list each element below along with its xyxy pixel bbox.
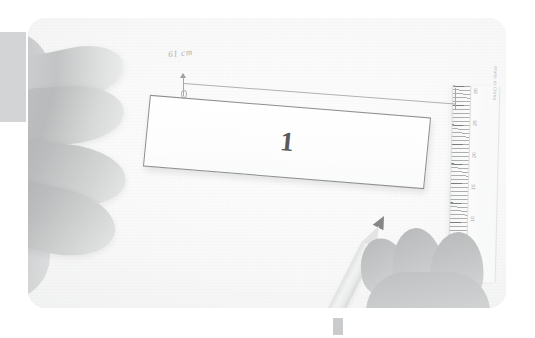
- left-edge-panel[interactable]: [0, 32, 26, 122]
- left-finger-middle: [28, 82, 126, 148]
- dimension-cap-right: [455, 88, 456, 110]
- bottom-center-marker[interactable]: [333, 318, 343, 335]
- photograph: 30 25 20 15 10 5 Made in China 61 cm 1: [28, 18, 506, 308]
- right-palm: [366, 272, 490, 308]
- screenshot-root: 30 25 20 15 10 5 Made in China 61 cm 1: [0, 0, 535, 338]
- ruler-number-1: 25: [471, 120, 477, 126]
- ruler-number-0: 30: [472, 88, 478, 94]
- ruler-number-3: 15: [470, 184, 476, 190]
- right-hand: [356, 216, 488, 308]
- ruler-number-2: 20: [471, 152, 477, 158]
- ruler-brand-text: Made in China: [492, 66, 498, 100]
- left-hand: [28, 26, 138, 298]
